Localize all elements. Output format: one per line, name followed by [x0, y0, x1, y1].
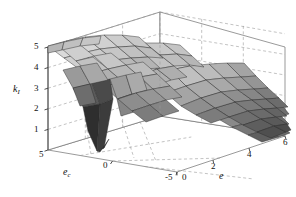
y-axis-label-subscript: c	[67, 171, 70, 178]
y-axis-label: ec	[63, 166, 70, 178]
z-tick-label-4: 4	[34, 62, 39, 72]
y-tick-label-0: 0	[103, 160, 108, 170]
x-tick-label-4: 4	[247, 149, 252, 159]
y-tick-label-neg5: -5	[165, 172, 173, 182]
surface-plot-figure: 1 2 3 4 5 5 0 -5 0 2 4 6 kI ec e	[0, 0, 296, 197]
y-tick-label-5: 5	[39, 149, 44, 159]
x-axis-label: e	[219, 170, 223, 181]
z-tick-label-5: 5	[34, 41, 39, 51]
x-tick-label-6: 6	[283, 137, 288, 147]
z-axis-ticks	[45, 47, 49, 131]
z-tick-label-3: 3	[34, 83, 39, 93]
x-tick-label-2: 2	[211, 161, 216, 171]
z-axis-label-subscript: I	[17, 88, 19, 95]
z-tick-label-1: 1	[34, 124, 39, 134]
x-axis-label-text: e	[219, 170, 223, 181]
z-axis-label: kI	[13, 83, 20, 95]
x-tick-label-0: 0	[182, 172, 187, 182]
surface-plot-canvas	[0, 0, 296, 197]
z-tick-label-2: 2	[34, 103, 39, 113]
